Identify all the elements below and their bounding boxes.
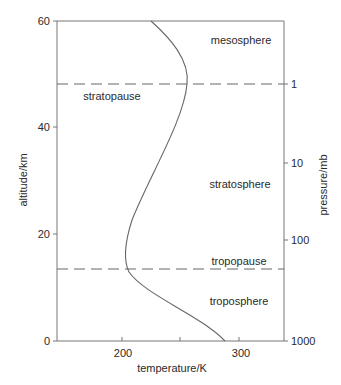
y-tick-0: 0 xyxy=(44,335,50,347)
x-axis-title: temperature/K xyxy=(137,362,207,374)
y-axis-title: altitude/km xyxy=(17,153,29,206)
pressure-tick-10: 10 xyxy=(291,157,303,169)
y-tick-60: 60 xyxy=(38,15,50,27)
pressure-axis-ticks xyxy=(284,84,288,341)
pressure-axis-title: pressure/mb xyxy=(317,154,329,215)
atmosphere-temperature-chart: 60 40 20 0 altitude/km 200 300 temperatu… xyxy=(0,0,341,385)
label-troposphere: troposphere xyxy=(210,295,269,307)
x-tick-200: 200 xyxy=(114,347,132,359)
pressure-tick-1: 1 xyxy=(291,78,297,90)
pressure-tick-100: 100 xyxy=(291,234,309,246)
label-stratosphere: stratosphere xyxy=(209,178,270,190)
y-tick-20: 20 xyxy=(38,228,50,240)
label-stratopause: stratopause xyxy=(83,90,140,102)
label-mesosphere: mesosphere xyxy=(211,34,272,46)
y-tick-40: 40 xyxy=(38,121,50,133)
x-tick-300: 300 xyxy=(232,347,250,359)
pressure-tick-1000: 1000 xyxy=(291,335,315,347)
label-tropopause: tropopause xyxy=(211,255,266,267)
y-axis-ticks xyxy=(53,21,57,341)
